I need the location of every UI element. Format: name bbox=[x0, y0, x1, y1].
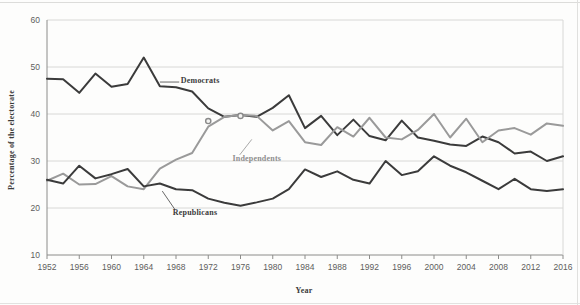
x-tick-label-1968: 1968 bbox=[167, 262, 186, 272]
x-tick-label-1960: 1960 bbox=[102, 262, 121, 272]
x-tick-label-1964: 1964 bbox=[134, 262, 153, 272]
y-tick-label-30: 30 bbox=[31, 156, 41, 166]
series-label-democrats: Democrats bbox=[181, 76, 220, 85]
chart-figure: 102030405060 195219561960196419681972197… bbox=[0, 0, 580, 305]
x-tick-label-1952: 1952 bbox=[38, 262, 57, 272]
y-axis-ticks: 102030405060 bbox=[31, 15, 41, 260]
y-tick-label-60: 60 bbox=[31, 15, 41, 25]
x-tick-label-1988: 1988 bbox=[328, 262, 347, 272]
x-tick-label-1956: 1956 bbox=[70, 262, 89, 272]
series-label-republicans: Republicans bbox=[173, 208, 217, 217]
data-point-markers bbox=[206, 113, 243, 123]
x-tick-label-2000: 2000 bbox=[425, 262, 444, 272]
party-identification-line-chart: 102030405060 195219561960196419681972197… bbox=[0, 0, 580, 305]
x-tick-label-1980: 1980 bbox=[263, 262, 282, 272]
x-tick-label-2008: 2008 bbox=[489, 262, 508, 272]
gridlines bbox=[47, 20, 563, 208]
series-line-democrats bbox=[47, 58, 563, 161]
y-axis-title: Percentage of the electorate bbox=[7, 90, 16, 190]
crossover-marker-0 bbox=[206, 118, 211, 123]
x-tick-label-1976: 1976 bbox=[231, 262, 250, 272]
data-series bbox=[47, 58, 563, 206]
x-tick-label-1996: 1996 bbox=[392, 262, 411, 272]
x-tick-label-1984: 1984 bbox=[296, 262, 315, 272]
x-tick-label-2016: 2016 bbox=[554, 262, 573, 272]
leader-line-independents bbox=[240, 139, 252, 155]
x-tick-label-1972: 1972 bbox=[199, 262, 218, 272]
x-tick-label-2004: 2004 bbox=[457, 262, 476, 272]
x-axis-ticks: 1952195619601964196819721976198019841988… bbox=[38, 255, 573, 272]
series-label-independents: Independents bbox=[232, 154, 281, 163]
series-line-independents bbox=[47, 114, 563, 189]
x-axis-title: Year bbox=[296, 286, 313, 295]
series-line-republicans bbox=[47, 156, 563, 205]
x-tick-label-1992: 1992 bbox=[360, 262, 379, 272]
series-annotations: DemocratsIndependentsRepublicans bbox=[160, 76, 281, 217]
y-tick-label-10: 10 bbox=[31, 250, 41, 260]
y-tick-label-20: 20 bbox=[31, 203, 41, 213]
y-tick-label-50: 50 bbox=[31, 62, 41, 72]
y-tick-label-40: 40 bbox=[31, 109, 41, 119]
x-tick-label-2012: 2012 bbox=[521, 262, 540, 272]
crossover-marker-1 bbox=[238, 113, 243, 118]
